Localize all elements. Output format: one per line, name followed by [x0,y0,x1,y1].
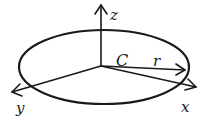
circle-axes-diagram: z C r x y [0,0,208,130]
z-axis-label: z [109,6,118,24]
curve-c-label: C [116,51,128,70]
z-axis [95,5,107,66]
y-axis-label: y [15,99,25,117]
x-axis-label: x [181,98,190,116]
radius-r-label: r [153,52,161,70]
